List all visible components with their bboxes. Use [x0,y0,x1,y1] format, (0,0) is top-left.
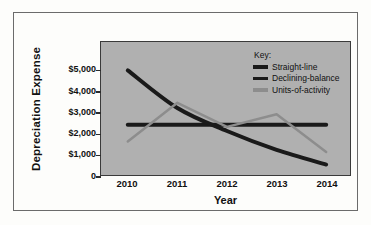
legend-label: Declining-balance [272,74,340,83]
series-line-units-of-activity [128,103,326,152]
figure-page: Depreciation Expense 0$1,000$2,000$3,000… [0,0,371,225]
y-axis-title-text: Depreciation Expense [30,46,42,170]
y-tick-mark [96,155,101,157]
x-tick-label: 2010 [116,179,137,189]
chart-legend: Key: Straight-lineDeclining-balanceUnits… [253,50,340,97]
legend-title: Key: [254,50,340,60]
x-tick-label: 2012 [216,179,237,189]
figure-frame: Depreciation Expense 0$1,000$2,000$3,000… [13,12,358,211]
y-tick-mark [96,134,101,136]
legend-label: Straight-line [272,63,317,72]
legend-item: Straight-line [253,62,340,72]
y-tick-mark [96,112,101,114]
y-tick-mark [96,176,101,178]
x-axis-title: Year [100,194,351,206]
y-tick-label: $1,000 [48,150,96,159]
plot-area: Key: Straight-lineDeclining-balanceUnits… [100,41,351,176]
x-tick-label: 2013 [266,179,287,189]
legend-swatch-icon [253,77,268,81]
y-tick-mark [96,70,101,72]
y-tick-label: $2,000 [48,129,96,138]
x-tick-label: 2011 [167,179,188,189]
y-tick-labels: 0$1,000$2,000$3,000$4,000$5,000 [46,41,96,176]
y-tick-label: $3,000 [48,108,96,117]
legend-item: Declining-balance [253,74,340,84]
y-axis-title: Depreciation Expense [27,41,45,176]
x-tick-label: 2014 [316,179,337,189]
x-tick-labels: 20102011201220132014 [100,179,351,193]
y-tick-label: 0 [48,172,96,181]
legend-items: Straight-lineDeclining-balanceUnits-of-a… [253,62,340,95]
legend-item: Units-of-activity [253,85,340,95]
legend-swatch-icon [253,88,268,92]
y-tick-label: $4,000 [48,87,96,96]
legend-swatch-icon [253,65,268,69]
legend-label: Units-of-activity [272,86,330,95]
y-tick-mark [96,91,101,93]
y-tick-label: $5,000 [48,65,96,74]
